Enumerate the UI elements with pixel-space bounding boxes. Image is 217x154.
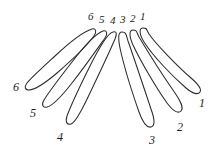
loop-4 — [66, 32, 116, 124]
tip-label-4: 4 — [57, 131, 63, 143]
loop-1 — [140, 28, 200, 94]
figure-canvas: 654321654321 — [0, 0, 217, 154]
top-label-2: 2 — [130, 13, 136, 24]
tip-label-2: 2 — [177, 121, 183, 133]
loop-3 — [119, 32, 154, 127]
loop-group — [25, 28, 200, 127]
top-label-5: 5 — [99, 14, 105, 25]
tip-label-5: 5 — [30, 107, 36, 119]
tip-label-3: 3 — [149, 134, 155, 146]
tip-label-1: 1 — [199, 97, 205, 109]
top-label-4: 4 — [110, 15, 116, 26]
tip-label-6: 6 — [13, 81, 19, 93]
loop-5 — [43, 31, 107, 107]
loop-6 — [25, 29, 95, 90]
top-label-6: 6 — [88, 11, 94, 22]
top-label-1: 1 — [140, 11, 146, 22]
top-label-3: 3 — [120, 14, 126, 25]
radiating-loops-drawing — [0, 0, 217, 154]
